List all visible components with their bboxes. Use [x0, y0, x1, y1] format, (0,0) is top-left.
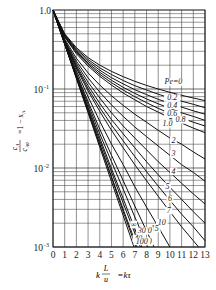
x-axis-ticks: 012345678910111213 — [51, 250, 210, 260]
x-tick-label: 12 — [189, 250, 199, 260]
curve-label: ∞ — [131, 220, 137, 229]
y-axis-label-denominator: cA0 — [20, 142, 30, 151]
x-tick-label: 11 — [177, 250, 186, 260]
pe-curves — [53, 10, 205, 247]
x-tick-label: 1 — [62, 250, 67, 260]
svg-text:=kτ: =kτ — [117, 270, 131, 280]
curve-label: 4 — [171, 167, 175, 176]
x-tick-label: 3 — [86, 250, 91, 260]
y-tick-exponent: -1 — [44, 84, 49, 90]
y-tick-label: 10 — [34, 85, 44, 95]
x-tick-label: 2 — [74, 250, 79, 260]
y-axis-label-numerator: cA — [10, 143, 20, 150]
dispersion-conversion-chart: 012345678910111213 1.010-110-210-3 Pe=00… — [0, 0, 216, 290]
x-tick-label: 5 — [109, 250, 114, 260]
y-tick-label: 10 — [34, 164, 44, 174]
x-axis-label: k L u =kτ — [96, 264, 131, 284]
y-tick-exponent: -3 — [44, 242, 49, 248]
plot-border — [53, 10, 205, 247]
curve-label: Pe=0 — [164, 77, 183, 86]
svg-text:L: L — [103, 264, 109, 273]
x-tick-label: 6 — [121, 250, 126, 260]
x-tick-label: 8 — [144, 250, 149, 260]
curve-label: 3 — [170, 149, 175, 158]
x-tick-label: 0 — [51, 250, 56, 260]
svg-text:k: k — [96, 270, 101, 280]
y-axis-label: cA cA0 =1 − xA — [10, 110, 31, 152]
y-tick-label: 1.0 — [39, 6, 51, 16]
x-tick-label: 7 — [132, 250, 137, 260]
svg-text:u: u — [104, 275, 108, 284]
curve-label: 6 — [168, 194, 172, 203]
grid-lines — [53, 10, 205, 247]
curve-label: 5 — [166, 182, 170, 191]
x-tick-label: 10 — [165, 250, 175, 260]
x-tick-label: 13 — [200, 250, 210, 260]
curve-pe-6 — [53, 10, 205, 241]
y-tick-label: 10 — [34, 243, 44, 253]
curve-label: 100 — [136, 237, 148, 246]
y-axis-ticks: 1.010-110-210-3 — [34, 6, 52, 253]
curve-label: 1.0 — [163, 119, 173, 128]
curve-label: 0.4 — [167, 101, 177, 110]
curve-label: 0.8 — [175, 115, 185, 124]
x-tick-label: 9 — [156, 250, 161, 260]
y-tick-exponent: -2 — [44, 163, 49, 169]
curve-label: 2 — [171, 136, 175, 145]
plot-frame — [53, 10, 205, 247]
x-tick-label: 4 — [97, 250, 102, 260]
curve-pe-- — [53, 10, 134, 247]
